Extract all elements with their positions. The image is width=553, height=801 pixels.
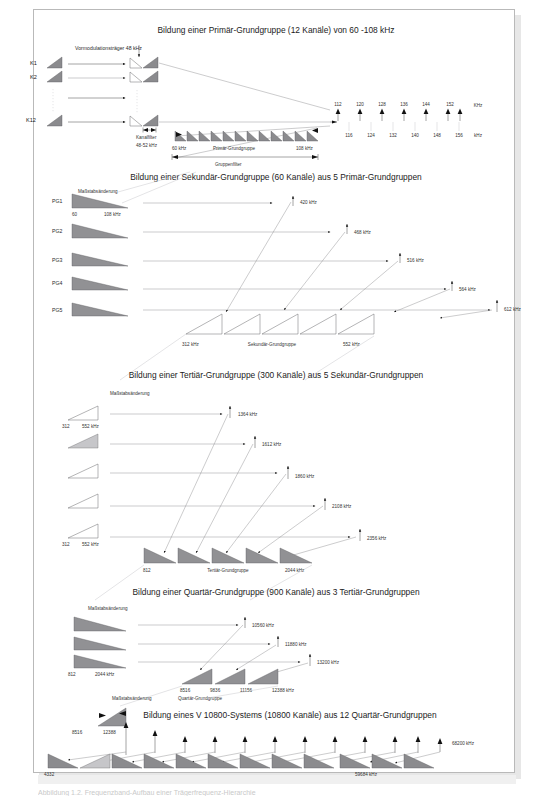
quaternary-tick-8516: 8516 [180, 688, 191, 693]
secondary-carrier-1: 420 kHz [300, 200, 318, 205]
system-input-start: 8516 [72, 730, 83, 735]
quaternary-tick-9836: 9836 [210, 688, 221, 693]
tertiary-carriers: 1364 kHz 1612 kHz 1860 kHz 2108 kHz 2356… [230, 406, 387, 541]
secondary-input-label-pg1: PG1 [52, 198, 62, 204]
tertiary-output-start: 812 [143, 568, 151, 573]
quaternary-section-title: Bildung einer Quartär-Grundgruppe (900 K… [132, 587, 419, 597]
primary-end-label: 108 kHz [296, 146, 314, 151]
primary-tick-136: 136 [400, 102, 408, 107]
secondary-input-label-pg3: PG3 [52, 257, 62, 263]
secondary-input-label-pg4: PG4 [52, 280, 62, 286]
tertiary-input-end-top: 552 kHz [82, 424, 100, 429]
quaternary-carrier-3: 13200 kHz [317, 660, 340, 665]
system-output-end: 59684 kHz [355, 772, 378, 777]
system-carrier-label: 68200 kHz [452, 741, 475, 746]
kanalfilter-bracket [143, 128, 156, 133]
primary-section-title: Bildung einer Primär-Grundgruppe (12 Kan… [158, 25, 395, 35]
tertiary-output-label: Tertiär-Grundgruppe [207, 568, 249, 573]
tertiary-transfer-lines [164, 414, 356, 556]
diagram-canvas: Bildung einer Primär-Grundgruppe (12 Kan… [0, 0, 553, 801]
primary-group-label: Primär-Grundgruppe [213, 146, 256, 151]
quaternary-carriers: 10560 kHz 11880 kHz 13200 kHz [245, 617, 340, 666]
tertiary-scale-note: Maßstabsänderung [110, 391, 150, 396]
secondary-transfer-lines [226, 202, 492, 318]
primary-start-label: 60 kHz [172, 146, 187, 151]
tertiary-input-start-bottom: 312 [62, 542, 70, 547]
secondary-output-label: Sekundär-Grundgruppe [248, 342, 297, 347]
primary-tick-148: 148 [433, 133, 441, 138]
system-output-spectrum [48, 754, 434, 768]
tertiary-carrier-3: 1860 kHz [295, 474, 315, 479]
primary-tick-124: 124 [367, 133, 375, 138]
primary-tick-140: 140 [411, 133, 419, 138]
tertiary-input-end-bottom: 552 kHz [82, 542, 100, 547]
system-scale-note: Maßstabsänderung [112, 696, 152, 701]
figure-caption: Abbildung 1.2. Frequenzband-Aufbau einer… [38, 789, 518, 796]
primary-axis-bottom: 116 124 132 140 148 156 kHz [345, 122, 482, 138]
secondary-carrier-4: 564 kHz [459, 287, 477, 292]
secondary-carrier-5: 612 kHz [504, 307, 522, 312]
primary-tick-132: 132 [389, 133, 397, 138]
secondary-output-spectrum [186, 314, 374, 334]
quaternary-scale-note: Maßstabsänderung [88, 606, 128, 611]
tertiary-carrier-5: 2356 kHz [367, 536, 387, 541]
secondary-carriers: 420 kHz 468 kHz 516 kHz 564 kHz 612 kHz [293, 196, 522, 312]
quaternary-carrier-1: 10560 kHz [252, 623, 275, 628]
tertiary-carrier-1: 1364 kHz [238, 412, 258, 417]
primary-axis-top: 112 120 128 136 144 152 KHz [330, 102, 483, 124]
tertiary-carrier-4: 2108 kHz [332, 504, 352, 509]
system-input-end: 12388 [103, 730, 116, 735]
quaternary-tick-12388: 12388 kHz [272, 688, 295, 693]
secondary-input-end: 108 kHz [104, 212, 122, 217]
system-section-title: Bildung eines V 10800-Systems (10800 Kan… [143, 710, 437, 720]
tertiary-section-title: Bildung einer Tertiär-Grundgruppe (300 K… [129, 370, 424, 380]
primary-tick-120: 120 [356, 102, 364, 107]
page-root: Bildung einer Primär-Grundgruppe (12 Kan… [0, 0, 553, 801]
primary-tick-128: 128 [378, 102, 386, 107]
secondary-section-title: Bildung einer Sekundär-Grundgruppe (60 K… [130, 172, 422, 182]
channel-label-k2: K2 [30, 74, 37, 80]
tertiary-carrier-2: 1612 kHz [262, 442, 282, 447]
secondary-output-start: 312 kHz [182, 342, 200, 347]
primary-tick-156: 156 [455, 133, 463, 138]
primary-modulator-triangles [130, 57, 158, 126]
secondary-input-label-pg2: PG2 [52, 228, 62, 234]
secondary-input-label-pg5: PG5 [52, 307, 62, 313]
kanalfilter-label: Kanalfilter [136, 135, 157, 140]
kanalfilter-range: 48-52 kHz [136, 143, 158, 148]
primary-axis-unit-top: KHz [474, 103, 483, 108]
tertiary-input-start-top: 312 [62, 424, 70, 429]
quaternary-input-end: 2044 kHz [95, 672, 115, 677]
system-tick-arrows [124, 722, 443, 755]
channel-label-k1: K1 [30, 60, 37, 66]
quaternary-transfer-lines [200, 625, 308, 674]
primary-tick-152: 152 [446, 102, 454, 107]
gruppenfilter-bracket [172, 154, 318, 160]
secondary-scale-note: Maßstabsänderung [78, 189, 118, 194]
primary-feed-lines [68, 64, 125, 122]
primary-input-triangles [47, 57, 62, 126]
quaternary-output-spectrum [182, 669, 278, 684]
primary-axis-unit-bottom: kHz [474, 133, 483, 138]
system-input-triangle [98, 708, 126, 726]
primary-tick-116: 116 [345, 133, 353, 138]
primary-fan-lines [159, 63, 330, 158]
secondary-input-start: 60 [72, 212, 78, 217]
channel-label-k12: K12 [26, 117, 36, 123]
system-output-start: 4332 [44, 772, 55, 777]
quaternary-input-triangles [74, 617, 126, 668]
vormodulationstraeger-label: Vormodulationsträger 48 kHz [75, 45, 142, 51]
secondary-carrier-2: 468 kHz [354, 230, 372, 235]
primary-tick-144: 144 [422, 102, 430, 107]
secondary-carrier-3: 516 kHz [407, 258, 425, 263]
quaternary-carrier-2: 11880 kHz [285, 642, 307, 647]
gruppenfilter-label: Gruppenfilter [215, 162, 242, 167]
primary-tick-112: 112 [334, 102, 342, 107]
quaternary-input-start: 812 [68, 672, 76, 677]
quaternary-feed-lines [138, 625, 300, 662]
